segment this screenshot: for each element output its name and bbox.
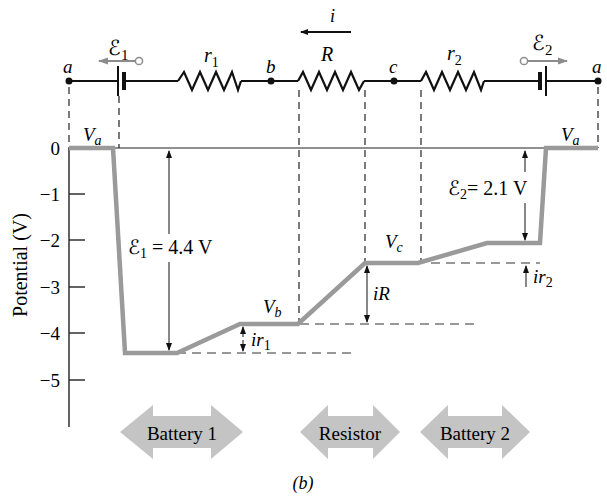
label-vb: Vb xyxy=(263,296,282,320)
region-battery-1-label: Battery 1 xyxy=(147,423,217,444)
node-a-left xyxy=(66,78,73,85)
label-emf2: ℰ2 xyxy=(532,31,553,58)
ytick-4: −4 xyxy=(40,323,61,344)
ytick-0: 0 xyxy=(51,138,61,159)
figure-caption: (b) xyxy=(293,473,314,494)
node-label-a-left: a xyxy=(63,56,73,77)
label-va-left: Va xyxy=(83,124,102,148)
ytick-2: −2 xyxy=(40,230,60,251)
label-va-right: Va xyxy=(561,124,580,148)
ytick-1: −1 xyxy=(40,184,60,205)
ytick-5: −5 xyxy=(40,370,60,391)
node-label-a-right: a xyxy=(592,56,602,77)
resistor-r2-symbol xyxy=(421,72,484,90)
region-resistor-label: Resistor xyxy=(319,423,382,444)
node-b xyxy=(268,78,275,85)
region-battery-1: Battery 1 xyxy=(120,405,243,459)
label-emf1-value: ℰ1 = 4.4 V xyxy=(128,236,213,261)
node-label-c: c xyxy=(389,56,398,77)
node-label-b: b xyxy=(266,56,276,77)
battery-2-symbol xyxy=(540,66,546,96)
label-vc: Vc xyxy=(385,231,404,255)
y-axis-label: Potential (V) xyxy=(9,213,32,317)
region-battery-2: Battery 2 xyxy=(420,405,530,459)
circuit-potential-diagram: a b c a ℰ1 r1 R r2 ℰ2 i xyxy=(0,0,607,500)
label-r1: r1 xyxy=(204,44,219,70)
region-resistor: Resistor xyxy=(300,405,400,459)
resistor-R-symbol xyxy=(298,72,364,90)
current-arrow-icon: i xyxy=(301,6,351,32)
label-iR: iR xyxy=(373,283,390,304)
label-r2: r2 xyxy=(447,42,462,68)
current-label: i xyxy=(330,6,335,26)
reference-dashes xyxy=(177,263,540,353)
label-ir2: ir2 xyxy=(533,266,553,290)
ytick-3: −3 xyxy=(40,277,60,298)
resistor-r1-symbol xyxy=(178,72,241,90)
label-emf1: ℰ1 xyxy=(108,36,129,63)
label-R: R xyxy=(320,43,333,65)
region-battery-2-label: Battery 2 xyxy=(440,423,510,444)
battery-1-symbol xyxy=(118,66,124,96)
label-emf2-value: ℰ2= 2.1 V xyxy=(448,177,528,202)
node-c xyxy=(391,78,398,85)
label-ir1: ir1 xyxy=(251,329,271,353)
node-a-right xyxy=(595,78,602,85)
circuit: a b c a ℰ1 r1 R r2 ℰ2 i xyxy=(63,6,602,96)
emf2-direction-arrow-icon xyxy=(520,57,567,64)
